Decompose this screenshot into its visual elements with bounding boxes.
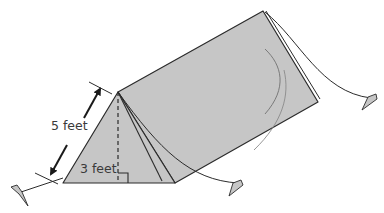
tent-diagram [0, 0, 384, 213]
tent-stake-icon [11, 185, 28, 206]
guy-rope-front-left [18, 178, 63, 193]
slant-height-label: 5 feet [50, 120, 89, 133]
dimension-arrow-lower [51, 145, 67, 174]
dimension-arrow-upper [84, 89, 100, 118]
height-label: 3 feet [79, 163, 118, 176]
dimension-tick-bottom [35, 173, 58, 184]
dimension-tick-top [89, 82, 112, 94]
